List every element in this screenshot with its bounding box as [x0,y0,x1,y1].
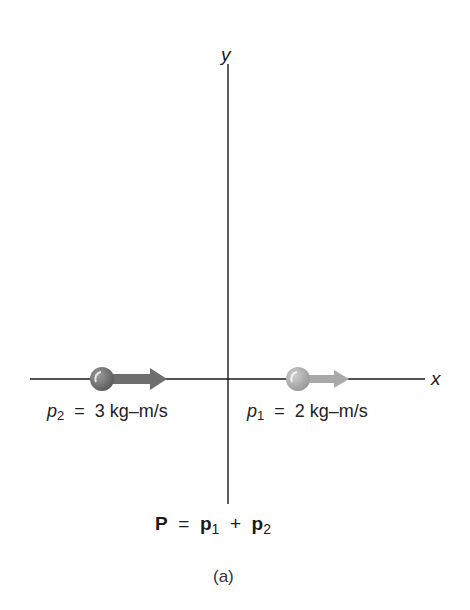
momentum-arrow-p1-head [334,370,349,388]
equals-sign: = [74,401,85,421]
momentum-subscript: 1 [257,408,264,423]
term2-symbol: p [252,513,264,534]
momentum-label-p1: p1 = 2 kg–m/s [247,401,368,423]
total-momentum-symbol: P [155,513,168,534]
momentum-arrow-p2-head [150,368,167,390]
momentum-value: 3 kg–m/s [95,401,168,421]
y-axis-label: y [221,44,231,66]
equals-sign: = [274,401,285,421]
momentum-value: 2 kg–m/s [295,401,368,421]
ball-p2 [90,367,114,391]
figure-caption: (a) [213,567,234,587]
particle-p2 [90,367,167,391]
x-axis-label: x [431,368,441,390]
momentum-symbol: p [47,401,57,421]
term1-symbol: p [200,513,212,534]
equals-sign: = [178,513,189,534]
plus-sign: + [230,513,241,534]
term2-subscript: 2 [263,521,271,537]
particle-p1 [286,367,349,391]
ball-p1 [286,367,310,391]
total-momentum-equation: P = p1 + p2 [155,513,271,537]
momentum-subscript: 2 [57,408,64,423]
momentum-symbol: p [247,401,257,421]
momentum-label-p2: p2 = 3 kg–m/s [47,401,168,423]
term1-subscript: 1 [212,521,220,537]
